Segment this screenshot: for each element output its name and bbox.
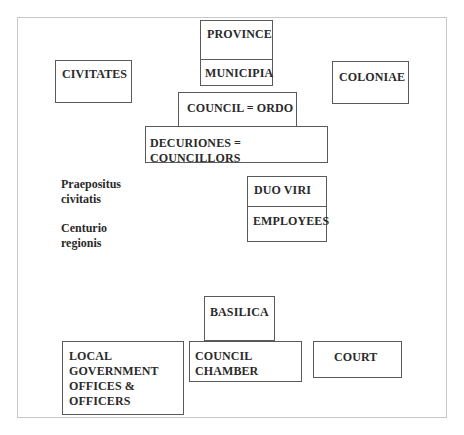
council-ordo-label: COUNCIL = ORDO	[187, 101, 293, 116]
province-box: PROVINCE	[200, 20, 273, 61]
council-chamber-box: COUNCIL CHAMBER	[189, 341, 302, 382]
employees-label: EMPLOYEES	[253, 214, 329, 229]
coloniae-label: COLONIAE	[339, 70, 405, 85]
centurio-label: Centurio regionis	[61, 221, 107, 251]
local-government-label: LOCAL GOVERNMENT OFFICES & OFFICERS	[69, 349, 159, 409]
municipia-label: MUNICIPIA	[205, 66, 273, 81]
court-label: COURT	[334, 350, 377, 365]
civitates-box: CIVITATES	[55, 60, 132, 103]
duo-viri-box: DUO VIRI	[247, 176, 327, 207]
local-government-box: LOCAL GOVERNMENT OFFICES & OFFICERS	[62, 341, 184, 415]
council-ordo-box: COUNCIL = ORDO	[178, 92, 297, 127]
municipia-box: MUNICIPIA	[200, 59, 273, 86]
decuriones-box: DECURIONES = COUNCILLORS	[145, 126, 328, 163]
decuriones-label: DECURIONES = COUNCILLORS	[150, 136, 327, 166]
coloniae-box: COLONIAE	[332, 61, 409, 104]
basilica-label: BASILICA	[210, 305, 269, 320]
province-label: PROVINCE	[207, 27, 272, 42]
court-box: COURT	[313, 341, 402, 378]
duo-viri-label: DUO VIRI	[254, 183, 311, 198]
basilica-box: BASILICA	[204, 296, 275, 341]
praepositus-label: Praepositus civitatis	[61, 177, 121, 207]
employees-box: EMPLOYEES	[247, 206, 327, 242]
civitates-label: CIVITATES	[62, 67, 127, 82]
council-chamber-label: COUNCIL CHAMBER	[195, 349, 258, 379]
